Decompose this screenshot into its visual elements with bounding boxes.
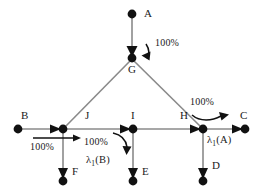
pointer-h-c (192, 115, 221, 120)
flow-diagram: A G B J I H C F E D 100% 100% 100% λ1(B)… (0, 0, 265, 194)
annotation-lambda-i-e: λ1(B) (86, 155, 110, 168)
pointer-head-h-c (219, 112, 229, 121)
edge-g-h (134, 61, 201, 127)
node-a (128, 10, 137, 19)
node-label-i: I (131, 110, 135, 121)
node-label-b: B (21, 110, 29, 121)
node-d (199, 177, 208, 186)
node-label-c: C (240, 110, 248, 121)
node-label-f: F (72, 166, 78, 177)
annotation-percent-a-g: 100% (155, 38, 179, 48)
node-b (14, 125, 23, 134)
node-i (129, 125, 138, 134)
diagram-canvas (0, 0, 265, 194)
node-label-g: G (128, 64, 136, 75)
node-h (199, 125, 208, 134)
annotation-lambda-h-c: λ1(A) (207, 135, 231, 148)
node-g (128, 54, 137, 63)
annotation-percent-h-c: 100% (190, 97, 214, 107)
pointer-head-a-g (142, 52, 151, 61)
edge-g-j (65, 61, 130, 127)
pointer-head-i-e (123, 146, 132, 155)
node-c (241, 125, 250, 134)
node-e (129, 177, 138, 186)
node-label-j: J (85, 110, 89, 121)
lambda-arg-b: (B) (95, 154, 110, 165)
annotation-percent-i-e: 100% (84, 137, 108, 147)
node-j (59, 125, 68, 134)
node-label-e: E (142, 166, 149, 177)
pointer-head-b-j (73, 135, 81, 142)
node-f (59, 177, 68, 186)
node-label-a: A (144, 8, 152, 19)
annotation-percent-b-j: 100% (30, 142, 54, 152)
node-label-h: H (180, 110, 188, 121)
pointer-i-e (113, 133, 127, 147)
node-label-d: D (212, 160, 220, 171)
lambda-arg-a: (A) (216, 134, 231, 145)
